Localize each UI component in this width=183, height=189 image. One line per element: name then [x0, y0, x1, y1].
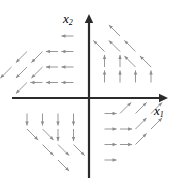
field-arrow-head [128, 127, 132, 130]
field-arrow [61, 34, 73, 37]
field-arrow [58, 160, 69, 171]
field-arrow [74, 145, 85, 156]
field-arrow-head [61, 50, 65, 53]
field-arrow [120, 143, 132, 146]
field-arrow-head [61, 81, 65, 84]
field-arrow-head [56, 122, 59, 126]
field-arrow [27, 129, 38, 140]
field-arrow [105, 143, 117, 146]
field-arrow [103, 70, 106, 82]
field-arrow-head [72, 137, 75, 141]
field-arrow [105, 158, 117, 161]
field-arrow [56, 129, 59, 141]
field-arrow [124, 56, 135, 67]
field-arrow [0, 67, 11, 78]
field-arrow [58, 145, 69, 156]
field-arrow-head [113, 127, 117, 130]
field-arrow [151, 118, 162, 129]
field-arrow-head [25, 122, 28, 126]
y-axis-label-subscript: 2 [69, 18, 73, 27]
field-arrow [43, 129, 54, 140]
field-arrow [43, 145, 54, 156]
field-arrow [134, 70, 137, 82]
field-arrow-head [113, 143, 117, 146]
field-arrow-head [103, 55, 106, 59]
field-arrow [118, 55, 121, 67]
field-arrow [16, 52, 27, 63]
field-arrow [120, 102, 131, 113]
x-axis-label-text: x [154, 103, 160, 118]
field-arrow [61, 65, 73, 68]
field-arrow [72, 129, 75, 141]
field-arrow [118, 70, 121, 82]
y-axis-label: x2 [63, 12, 73, 25]
field-arrow [109, 40, 120, 51]
field-arrow-head [113, 112, 117, 115]
field-arrow-head [103, 70, 106, 74]
field-arrow [46, 81, 58, 84]
field-arrow-head [113, 158, 117, 161]
field-arrow [41, 114, 44, 126]
field-arrow [25, 114, 28, 126]
field-arrow [16, 67, 27, 78]
axis-layer [12, 14, 168, 178]
field-arrow-head [61, 65, 65, 68]
field-arrow [120, 127, 132, 130]
field-arrow [136, 133, 147, 144]
x-axis-arrowhead [159, 94, 168, 102]
field-arrow-head [134, 70, 137, 74]
field-arrow [46, 65, 58, 68]
field-arrow [136, 118, 147, 129]
vector-field-figure: x2 x1 [0, 0, 183, 189]
field-arrow-head [118, 70, 121, 74]
x-axis-label: x1 [154, 104, 164, 117]
field-arrow [136, 102, 147, 113]
field-arrow-head [56, 137, 59, 141]
field-arrow [109, 25, 120, 36]
field-arrow-head [41, 122, 44, 126]
field-arrow-head [46, 50, 50, 53]
field-arrow [124, 40, 135, 51]
direction-field-plot [0, 0, 183, 189]
field-arrow [61, 81, 73, 84]
field-arrow [30, 81, 42, 84]
field-arrow [103, 55, 106, 67]
field-arrow [72, 114, 75, 126]
field-arrow-head [46, 65, 50, 68]
field-arrow-head [30, 81, 34, 84]
field-arrow [16, 83, 27, 94]
y-axis-arrowhead [85, 14, 93, 23]
field-arrow [105, 112, 117, 115]
field-arrow-head [149, 70, 152, 74]
field-arrow [149, 70, 152, 82]
y-axis-label-text: x [63, 11, 69, 26]
field-arrow-head [46, 81, 50, 84]
field-arrow-head [72, 122, 75, 126]
field-arrow [61, 50, 73, 53]
field-arrow [46, 50, 58, 53]
x-axis-label-subscript: 1 [160, 110, 164, 119]
field-arrow [31, 52, 42, 63]
field-arrow [31, 67, 42, 78]
field-arrow-head [118, 55, 121, 59]
field-arrow [105, 127, 117, 130]
field-arrow-head [61, 34, 65, 37]
field-arrow [56, 114, 59, 126]
field-arrow-head [128, 143, 132, 146]
field-arrow [93, 40, 104, 51]
field-arrow [140, 56, 151, 67]
